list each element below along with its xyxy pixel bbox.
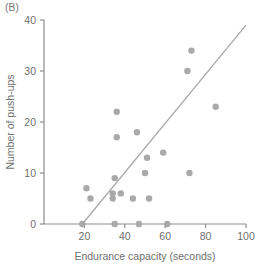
- data-point: [136, 221, 142, 227]
- scatter-plot-figure: (B) 010203040 20406080100 Endurance capa…: [0, 0, 258, 265]
- data-point: [83, 185, 89, 191]
- y-axis-ticks: 010203040: [24, 14, 44, 230]
- x-axis-title: Endurance capacity (seconds): [74, 250, 215, 262]
- data-point: [188, 47, 194, 53]
- data-point: [112, 221, 118, 227]
- data-point: [114, 134, 120, 140]
- trend-line: [82, 25, 246, 224]
- y-tick-label: 40: [24, 14, 36, 26]
- data-point: [79, 221, 85, 227]
- data-point: [134, 129, 140, 135]
- y-tick-label: 20: [24, 116, 36, 128]
- data-points: [79, 47, 219, 227]
- data-point: [186, 170, 192, 176]
- data-point: [213, 104, 219, 110]
- data-point: [114, 109, 120, 115]
- data-point: [112, 175, 118, 181]
- data-point: [146, 195, 152, 201]
- data-point: [109, 190, 115, 196]
- x-tick-label: 60: [159, 230, 171, 242]
- plot-canvas: 010203040 20406080100 Endurance capacity…: [0, 0, 258, 265]
- x-tick-label: 20: [79, 230, 91, 242]
- y-axis-title: Number of push-ups: [4, 74, 16, 169]
- data-point: [164, 221, 170, 227]
- y-tick-label: 10: [24, 167, 36, 179]
- regression-line: [82, 25, 246, 224]
- data-point: [160, 149, 166, 155]
- y-tick-label: 30: [24, 65, 36, 77]
- data-point: [142, 170, 148, 176]
- data-point: [130, 195, 136, 201]
- data-point: [184, 68, 190, 74]
- data-point: [144, 155, 150, 161]
- data-point: [87, 195, 93, 201]
- x-tick-label: 100: [237, 230, 255, 242]
- axes: [44, 20, 246, 224]
- y-tick-label: 0: [30, 218, 36, 230]
- x-tick-label: 80: [200, 230, 212, 242]
- x-tick-label: 40: [119, 230, 131, 242]
- data-point: [118, 190, 124, 196]
